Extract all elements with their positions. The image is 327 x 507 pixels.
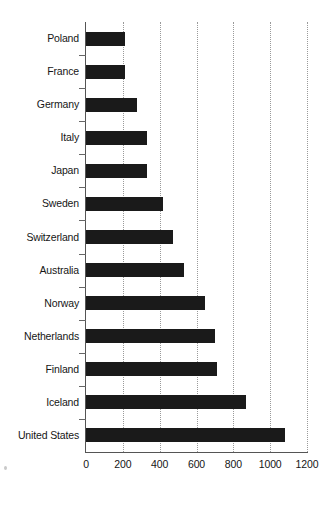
bar [86, 230, 173, 244]
plot-area [86, 22, 307, 452]
x-axis-line [85, 452, 308, 453]
y-tick-mark [79, 320, 86, 321]
y-axis-label: Finland [0, 364, 79, 375]
y-axis-label: Netherlands [0, 331, 79, 342]
y-axis-line [85, 22, 86, 453]
y-tick-mark [79, 88, 86, 89]
y-axis-label: Italy [0, 132, 79, 143]
y-tick-mark [79, 55, 86, 56]
page-artifact-speck [4, 466, 7, 470]
y-tick-mark [79, 419, 86, 420]
x-axis-tick-label: 1200 [285, 459, 327, 470]
gridline-800 [233, 22, 234, 452]
bar [86, 131, 147, 145]
bar [86, 197, 163, 211]
bar [86, 164, 147, 178]
bar [86, 65, 125, 79]
y-axis-label: Switzerland [0, 232, 79, 243]
y-axis-label: Norway [0, 298, 79, 309]
bar [86, 98, 137, 112]
bar [86, 362, 217, 376]
y-tick-mark [79, 254, 86, 255]
y-tick-mark [79, 154, 86, 155]
gridline-600 [197, 22, 198, 452]
y-axis-label: Germany [0, 99, 79, 110]
gridline-1200 [307, 22, 308, 452]
y-tick-mark [79, 121, 86, 122]
y-tick-mark [79, 220, 86, 221]
bar [86, 329, 215, 343]
bar [86, 263, 184, 277]
bar [86, 296, 205, 310]
y-axis-label: Iceland [0, 397, 79, 408]
y-axis-label: Japan [0, 165, 79, 176]
y-axis-label: France [0, 66, 79, 77]
gridline-1000 [270, 22, 271, 452]
y-axis-label: Australia [0, 265, 79, 276]
bar-chart: PolandFranceGermanyItalyJapanSwedenSwitz… [0, 0, 327, 507]
bar [86, 428, 285, 442]
y-tick-mark [79, 386, 86, 387]
bar [86, 32, 125, 46]
y-axis-label: Poland [0, 33, 79, 44]
y-tick-mark [79, 187, 86, 188]
y-axis-label: Sweden [0, 198, 79, 209]
y-tick-mark [79, 287, 86, 288]
y-tick-mark [79, 353, 86, 354]
y-axis-label: United States [0, 430, 79, 441]
bar [86, 395, 246, 409]
